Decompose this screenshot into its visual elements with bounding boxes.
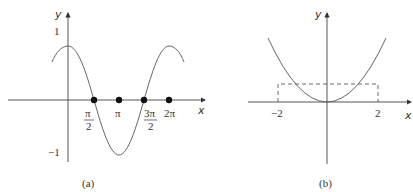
a-y-tick-neg1: −1: [48, 146, 60, 158]
a-x-axis-label: x: [197, 104, 205, 117]
a-x-tick-3pi-over-2-num: 3π: [144, 107, 156, 119]
a-y-tick-1: 1: [54, 25, 60, 37]
b-x-tick-neg2: −2: [271, 107, 283, 119]
figure-b: y x −2 2 (b): [248, 8, 412, 190]
a-point-2pi: [166, 97, 172, 103]
figure-a: y 1 −1 x π 2 π 3π 2 2π (a): [8, 8, 205, 190]
b-y-axis-label: y: [314, 8, 322, 21]
a-caption: (a): [82, 177, 95, 190]
a-point-pi-over-2: [91, 97, 97, 103]
a-y-axis-label: y: [54, 8, 62, 21]
b-caption: (b): [319, 177, 332, 190]
a-x-tick-pi-over-2-num: π: [85, 107, 91, 119]
b-x-tick-2: 2: [375, 107, 381, 119]
a-point-3pi-over-2: [141, 97, 147, 103]
a-x-tick-3pi-over-2-den: 2: [148, 120, 154, 132]
a-point-pi: [116, 97, 122, 103]
a-x-tick-2pi: 2π: [164, 107, 176, 119]
figure-canvas: y 1 −1 x π 2 π 3π 2 2π (a) y x −2 2: [0, 0, 413, 192]
b-dashed-rectangle: [278, 84, 378, 102]
a-x-tick-pi-over-2-den: 2: [86, 120, 92, 132]
b-x-axis-label: x: [404, 109, 412, 122]
a-x-tick-pi: π: [115, 107, 121, 119]
